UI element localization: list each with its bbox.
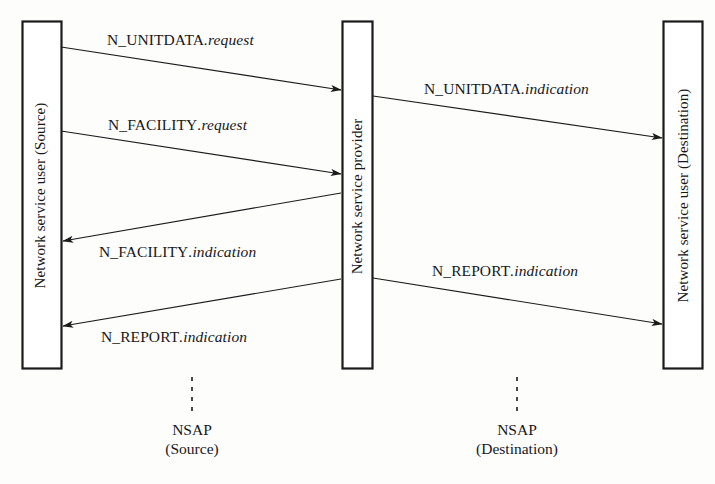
message-kind-text: .indication — [521, 80, 589, 97]
nsap-destination-line2: (Destination) — [417, 439, 617, 458]
message-name-text: N_UNITDATA — [107, 31, 204, 48]
message-kind-text: .request — [197, 116, 247, 133]
message-name-text: N_REPORT — [101, 328, 179, 345]
message-label-n-facility-request: N_FACILITY.request — [108, 116, 247, 134]
arrow-n-unitdata-request — [61, 47, 341, 90]
nsap-label-destination: NSAP (Destination) — [417, 420, 617, 458]
message-label-n-report-indication-to-source: N_REPORT.indication — [101, 328, 247, 346]
arrow-n-facility-indication — [63, 193, 341, 241]
message-label-n-unitdata-indication: N_UNITDATA.indication — [424, 80, 589, 98]
message-kind-text: .indication — [188, 243, 256, 260]
arrow-n-unitdata-indication — [373, 96, 662, 138]
message-name-text: N_FACILITY — [99, 243, 188, 260]
nsap-label-source: NSAP (Source) — [92, 420, 292, 458]
diagram-canvas: Network service user (Source) Network se… — [0, 0, 715, 484]
message-kind-text: .indication — [179, 328, 247, 345]
message-kind-text: .request — [204, 31, 254, 48]
arrow-n-report-indication-to-destination — [373, 278, 662, 324]
message-name-text: N_REPORT — [432, 262, 510, 279]
entity-label-source-user: Network service user (Source) — [32, 54, 49, 338]
message-label-n-report-indication-to-destination: N_REPORT.indication — [432, 262, 578, 280]
entity-label-destination-user: Network service user (Destination) — [675, 44, 692, 348]
nsap-destination-line1: NSAP — [417, 420, 617, 439]
message-label-n-facility-indication: N_FACILITY.indication — [99, 243, 256, 261]
entity-label-provider: Network service provider — [349, 77, 366, 317]
arrow-n-report-indication-to-source — [63, 279, 341, 326]
nsap-source-line1: NSAP — [92, 420, 292, 439]
message-kind-text: .indication — [510, 262, 578, 279]
message-label-n-unitdata-request: N_UNITDATA.request — [107, 31, 254, 49]
nsap-source-line2: (Source) — [92, 439, 292, 458]
message-name-text: N_UNITDATA — [424, 80, 521, 97]
arrow-n-facility-request — [61, 131, 341, 174]
message-name-text: N_FACILITY — [108, 116, 197, 133]
